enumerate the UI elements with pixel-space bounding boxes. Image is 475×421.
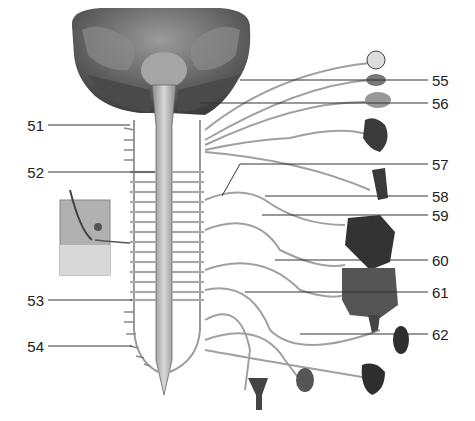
eye <box>367 51 385 69</box>
label-58: 58 <box>432 189 449 204</box>
chain-spurs <box>124 128 150 366</box>
label-61: 61 <box>432 285 449 300</box>
label-62: 62 <box>432 327 449 342</box>
skin-inset <box>60 190 130 275</box>
label-55: 55 <box>432 73 449 88</box>
label-54: 54 <box>18 339 44 354</box>
bladder <box>362 364 385 395</box>
label-53: 53 <box>18 293 44 308</box>
salivary-gland <box>365 92 391 108</box>
label-52: 52 <box>18 165 44 180</box>
label-59: 59 <box>432 208 449 223</box>
intestines <box>342 268 398 318</box>
kidney <box>393 326 409 354</box>
label-51: 51 <box>18 118 44 133</box>
lung <box>372 168 388 200</box>
uterus <box>248 378 268 410</box>
label-57: 57 <box>432 157 449 172</box>
label-56: 56 <box>432 96 449 111</box>
heart <box>363 118 388 152</box>
liver-stomach <box>345 215 395 270</box>
testis <box>296 368 314 392</box>
anatomy-diagram <box>0 0 475 421</box>
spinal-cord <box>152 85 176 395</box>
label-60: 60 <box>432 253 449 268</box>
